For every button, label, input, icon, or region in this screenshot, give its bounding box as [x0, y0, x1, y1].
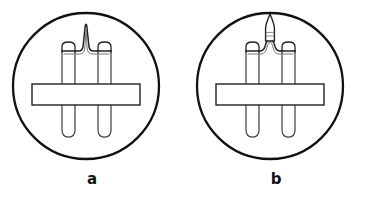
- figure-panel-b: b: [184, 0, 368, 200]
- figure-panel-a: a: [0, 0, 184, 200]
- horizontal-insulator-bar: [216, 84, 324, 105]
- horizontal-insulator-bar: [32, 84, 140, 105]
- panel-a-label: a: [0, 170, 184, 188]
- figure-root: a b: [0, 0, 368, 200]
- panel-b-drawing: [184, 0, 368, 178]
- panel-b-label: b: [184, 170, 368, 188]
- panel-a-drawing: [0, 0, 184, 178]
